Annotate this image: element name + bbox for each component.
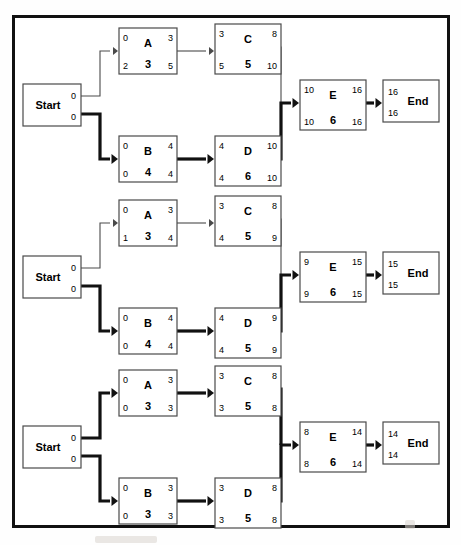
diagram-1: Start000325A338510C50404B4410410D6101610…: [15, 18, 447, 190]
node-early-start-E: 10: [304, 85, 314, 95]
start-node[interactable]: Start00: [23, 84, 81, 126]
diagram-1-container: Start000325A338510C50404B4410410D6101610…: [15, 18, 447, 190]
start-late-value: 0: [71, 112, 76, 122]
scan-artifact: [95, 536, 157, 543]
arrowhead-e-end: [376, 440, 383, 450]
node-early-finish-B: 3: [168, 483, 173, 493]
node-late-finish-D: 8: [272, 515, 277, 525]
activity-node-E[interactable]: 10161016E6: [300, 80, 366, 130]
activity-node-A[interactable]: 0314A3: [119, 200, 177, 246]
node-late-start-B: 0: [123, 169, 128, 179]
diagram-frame: Start000325A338510C50404B4410410D6101610…: [12, 15, 450, 528]
node-early-finish-C: 8: [272, 29, 277, 39]
node-early-start-D: 3: [219, 483, 224, 493]
node-label-D: D: [244, 317, 252, 329]
edge-start-b: [81, 286, 110, 331]
node-late-finish-C: 8: [272, 403, 277, 413]
node-label-C: C: [244, 375, 252, 387]
arrowhead-b-d: [208, 154, 215, 164]
node-label-B: B: [144, 145, 152, 157]
edge-start-a: [81, 51, 110, 96]
node-early-finish-A: 3: [168, 33, 173, 43]
node-label-B: B: [144, 317, 152, 329]
activity-node-C[interactable]: 38510C5: [215, 24, 281, 74]
arrowhead-start-a: [113, 219, 118, 227]
end-early-value: 15: [388, 259, 398, 269]
node-early-finish-A: 3: [168, 205, 173, 215]
arrowhead-a-c: [208, 388, 215, 398]
node-duration-E: 6: [330, 286, 336, 298]
activity-node-B[interactable]: 0404B4: [119, 136, 177, 182]
node-early-start-E: 9: [304, 257, 309, 267]
activity-node-E[interactable]: 915915E6: [300, 252, 366, 302]
node-late-finish-B: 4: [168, 341, 173, 351]
node-late-start-B: 0: [123, 341, 128, 351]
node-early-finish-D: 10: [267, 141, 277, 151]
arrowhead-start-b: [112, 154, 119, 164]
node-late-finish-C: 9: [272, 233, 277, 243]
start-label: Start: [35, 441, 60, 453]
node-late-finish-E: 16: [352, 117, 362, 127]
start-label: Start: [35, 271, 60, 283]
node-late-start-D: 4: [219, 345, 224, 355]
node-early-finish-E: 14: [352, 427, 362, 437]
arrowhead-de-e: [293, 270, 300, 280]
start-late-value: 0: [71, 454, 76, 464]
end-early-value: 16: [388, 87, 398, 97]
node-duration-E: 6: [330, 114, 336, 126]
node-early-finish-B: 4: [168, 313, 173, 323]
arrowhead-b-d: [208, 326, 215, 336]
node-label-E: E: [329, 431, 336, 443]
end-node[interactable]: End1515: [383, 252, 439, 294]
arrowhead-a-c: [209, 47, 214, 55]
node-duration-B: 3: [145, 508, 151, 520]
node-label-A: A: [144, 37, 152, 49]
edge-start-a: [81, 223, 110, 268]
node-early-start-B: 0: [123, 483, 128, 493]
arrowhead-e-end: [376, 270, 383, 280]
end-node[interactable]: End1616: [383, 80, 439, 122]
node-duration-A: 3: [145, 400, 151, 412]
node-late-start-E: 10: [304, 117, 314, 127]
activity-node-D[interactable]: 3838D5: [215, 478, 281, 528]
start-node[interactable]: Start00: [23, 426, 81, 468]
node-duration-C: 5: [245, 400, 251, 412]
end-late-value: 15: [388, 280, 398, 290]
node-label-D: D: [244, 487, 252, 499]
activity-node-B[interactable]: 0404B4: [119, 308, 177, 354]
node-early-start-C: 3: [219, 371, 224, 381]
end-late-value: 14: [388, 450, 398, 460]
node-early-start-A: 0: [123, 375, 128, 385]
node-early-start-E: 8: [304, 427, 309, 437]
node-early-finish-E: 15: [352, 257, 362, 267]
activity-node-D[interactable]: 410410D6: [215, 136, 281, 186]
node-early-start-A: 0: [123, 33, 128, 43]
node-label-E: E: [329, 261, 336, 273]
node-early-start-B: 0: [123, 313, 128, 323]
activity-node-A[interactable]: 0303A3: [119, 370, 177, 416]
activity-node-C[interactable]: 3849C5: [215, 196, 281, 246]
arrowhead-start-a: [112, 388, 119, 398]
end-node[interactable]: End1414: [383, 422, 439, 464]
start-node[interactable]: Start00: [23, 256, 81, 298]
node-duration-D: 5: [245, 342, 251, 354]
node-early-finish-A: 3: [168, 375, 173, 385]
node-early-finish-D: 8: [272, 483, 277, 493]
activity-node-C[interactable]: 3838C5: [215, 366, 281, 416]
arrowhead-de-e: [293, 440, 300, 450]
node-early-finish-D: 9: [272, 313, 277, 323]
node-duration-D: 5: [245, 512, 251, 524]
activity-node-B[interactable]: 0303B3: [119, 478, 177, 524]
edge-start-a: [81, 393, 110, 438]
node-early-finish-E: 16: [352, 85, 362, 95]
node-late-start-E: 8: [304, 459, 309, 469]
activity-node-A[interactable]: 0325A3: [119, 28, 177, 74]
node-late-finish-D: 10: [267, 173, 277, 183]
activity-node-D[interactable]: 4949D5: [215, 308, 281, 358]
node-late-start-C: 4: [219, 233, 224, 243]
diagram-stack: Start000325A338510C50404B4410410D6101610…: [15, 18, 447, 530]
activity-node-E[interactable]: 814814E6: [300, 422, 366, 472]
node-early-finish-B: 4: [168, 141, 173, 151]
diagram-2-container: Start000314A33849C50404B44949D5915915E6E…: [15, 190, 447, 360]
scan-artifact-2: [405, 520, 415, 529]
